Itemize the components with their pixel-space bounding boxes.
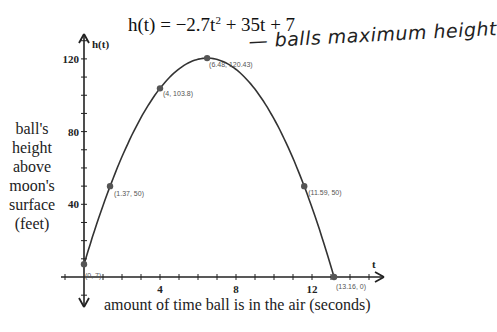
- x-tick-label: 12: [307, 283, 319, 295]
- ticks: 48124080120: [63, 41, 370, 295]
- x-axis-name: t: [372, 258, 376, 270]
- data-point: [301, 183, 307, 189]
- data-point-label: (11.59, 50): [308, 189, 341, 197]
- y-axis-name: h(t): [92, 38, 109, 51]
- y-tick-label: 40: [68, 198, 80, 210]
- data-point-label: (6.48, 120.43): [209, 61, 253, 69]
- data-point-label: (4, 103.8): [163, 90, 193, 98]
- x-tick-label: 8: [233, 283, 239, 295]
- data-point-label: (13.16, 0): [336, 283, 366, 291]
- data-point: [81, 261, 87, 267]
- data-point-label: (1.37, 50): [114, 190, 144, 198]
- data-point: [107, 183, 113, 189]
- data-point-label: (0, 7): [85, 272, 101, 280]
- y-tick-label: 80: [68, 126, 80, 138]
- y-tick-label: 120: [63, 53, 80, 65]
- parabola-curve: [84, 58, 334, 277]
- data-points: (0, 7)(1.37, 50)(4, 103.8)(6.48, 120.43)…: [81, 55, 366, 291]
- axes: th(t): [61, 34, 384, 307]
- x-tick-label: 4: [157, 283, 163, 295]
- data-point: [331, 274, 337, 280]
